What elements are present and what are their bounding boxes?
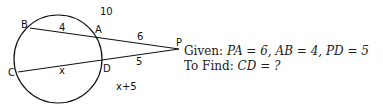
secant-pc xyxy=(18,49,179,72)
point-b-label: B xyxy=(21,19,28,30)
label-pa: 6 xyxy=(137,31,143,42)
given-line: Given: PA = 6, AB = 4, PD = 5 xyxy=(184,44,369,59)
find-line: To Find: CD = ? xyxy=(184,59,369,74)
label-pb-total: 10 xyxy=(100,6,113,17)
label-ab: 4 xyxy=(59,22,65,33)
point-a-label: A xyxy=(95,24,102,35)
given-label: Given: xyxy=(184,44,223,58)
point-c-label: C xyxy=(8,67,15,78)
find-label: To Find: xyxy=(184,59,234,73)
label-cd: x xyxy=(59,65,65,76)
point-d-label: D xyxy=(103,63,111,74)
secant-pb xyxy=(30,28,179,49)
given-values: PA = 6, AB = 4, PD = 5 xyxy=(227,44,369,58)
point-p-label: P xyxy=(176,37,182,48)
label-pc-total: x+5 xyxy=(116,81,137,92)
find-value: CD = ? xyxy=(238,59,281,73)
label-pd: 5 xyxy=(136,56,142,67)
problem-statement: Given: PA = 6, AB = 4, PD = 5 To Find: C… xyxy=(184,44,369,74)
